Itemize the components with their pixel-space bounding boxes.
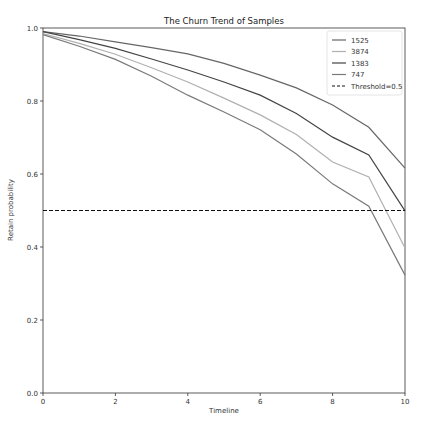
y-tick-label: 1.0 bbox=[27, 25, 38, 33]
churn-trend-chart: The Churn Trend of Samples 0.00.20.40.60… bbox=[0, 0, 428, 435]
y-tick-label: 0.2 bbox=[27, 317, 38, 325]
y-tick-label: 0.6 bbox=[27, 171, 39, 179]
y-tick-label: 0.0 bbox=[27, 390, 38, 398]
x-axis: 0246810 bbox=[41, 393, 410, 406]
x-tick-label: 0 bbox=[41, 398, 45, 406]
y-tick-label: 0.8 bbox=[27, 98, 38, 106]
legend-label: 1525 bbox=[351, 37, 369, 45]
x-tick-label: 8 bbox=[330, 398, 334, 406]
y-tick-label: 0.4 bbox=[27, 244, 39, 252]
legend-label: Threshold=0.5 bbox=[350, 83, 403, 91]
chart-title: The Churn Trend of Samples bbox=[163, 16, 284, 26]
x-axis-label: Timeline bbox=[208, 407, 239, 415]
x-tick-label: 2 bbox=[113, 398, 117, 406]
legend: 152538741383747Threshold=0.5 bbox=[327, 31, 403, 95]
legend-label: 3874 bbox=[351, 48, 369, 56]
x-tick-label: 10 bbox=[401, 398, 410, 406]
y-axis: 0.00.20.40.60.81.0 bbox=[27, 25, 43, 398]
x-tick-label: 4 bbox=[186, 398, 191, 406]
y-axis-label: Retain probability bbox=[7, 179, 15, 241]
x-tick-label: 6 bbox=[258, 398, 263, 406]
legend-label: 747 bbox=[351, 71, 364, 79]
legend-label: 1383 bbox=[351, 60, 369, 68]
